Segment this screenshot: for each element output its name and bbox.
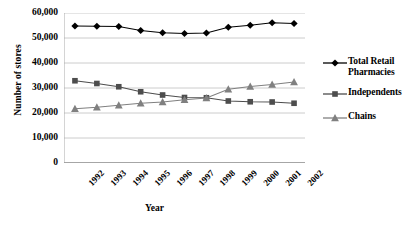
square-line-marker-icon — [322, 88, 348, 100]
diamond-data-marker — [331, 59, 338, 66]
x-axis-tick-label: 1996 — [174, 168, 194, 188]
y-axis-tick-label: 0 — [10, 158, 58, 168]
series-total-retail-pharmacies — [71, 19, 297, 37]
x-axis-tick-label: 2001 — [283, 168, 303, 188]
legend-label: Total RetailPharmacies — [348, 56, 395, 78]
chart-legend: Total RetailPharmaciesIndependentsChains — [322, 56, 411, 133]
y-axis-tick-label: 50,000 — [10, 33, 58, 43]
legend-label-line: Pharmacies — [348, 67, 395, 78]
square-data-marker — [116, 84, 122, 90]
diamond-data-marker — [137, 27, 144, 34]
diamond-data-marker — [71, 22, 78, 29]
triangle-data-marker — [290, 78, 298, 85]
x-axis-tick-label: 1992 — [86, 168, 106, 188]
x-axis-tick-label: 1994 — [130, 168, 150, 188]
legend-label-line: Chains — [348, 111, 376, 122]
y-axis-tick-label: 40,000 — [10, 58, 58, 68]
square-data-marker — [138, 89, 144, 95]
diamond-data-marker — [269, 19, 276, 26]
diamond-data-marker — [93, 23, 100, 30]
diamond-data-marker — [159, 29, 166, 36]
legend-label-line: Total Retail — [348, 56, 395, 67]
y-axis-tick-label: 30,000 — [10, 83, 58, 93]
diamond-data-marker — [181, 30, 188, 37]
x-axis-tick-label: 1997 — [196, 168, 216, 188]
square-data-marker — [269, 99, 275, 105]
square-data-marker — [94, 81, 100, 87]
x-axis-tick-label: 2000 — [261, 168, 281, 188]
legend-item[interactable]: Total RetailPharmacies — [322, 56, 411, 78]
x-axis-tick-label: 1998 — [218, 168, 238, 188]
diamond-data-marker — [203, 29, 210, 36]
pharmacy-stores-line-chart: Number of stores 010,00020,00030,00040,0… — [0, 0, 411, 231]
plot-svg — [64, 13, 305, 163]
y-axis-tick-labels: 010,00020,00030,00040,00050,00060,000 — [6, 0, 58, 231]
legend-label: Chains — [348, 111, 376, 122]
data-series-layer — [71, 19, 298, 112]
x-axis-tick-label: 1995 — [152, 168, 172, 188]
legend-label-line: Independents — [348, 87, 402, 98]
y-axis-tick-label: 20,000 — [10, 108, 58, 118]
diamond-data-marker — [115, 23, 122, 30]
square-data-marker — [160, 92, 166, 98]
square-data-marker — [72, 78, 78, 84]
square-data-marker — [291, 100, 297, 106]
x-axis-tick-label: 2002 — [305, 168, 325, 188]
diamond-data-marker — [247, 22, 254, 29]
y-axis-tick-label: 10,000 — [10, 133, 58, 143]
triangle-line-marker-icon — [322, 112, 348, 124]
legend-item[interactable]: Chains — [322, 111, 411, 124]
plot-area — [64, 13, 305, 163]
square-data-marker — [226, 98, 232, 104]
x-axis-tick-label: 1999 — [240, 168, 260, 188]
diamond-data-marker — [290, 20, 297, 27]
legend-item[interactable]: Independents — [322, 87, 411, 100]
square-data-marker — [332, 91, 338, 97]
square-data-marker — [247, 99, 253, 105]
legend-label: Independents — [348, 87, 402, 98]
diamond-data-marker — [225, 24, 232, 31]
x-axis-tick-label: 1993 — [108, 168, 128, 188]
y-axis-tick-label: 60,000 — [10, 8, 58, 18]
x-axis-title: Year — [145, 203, 164, 213]
diamond-line-marker-icon — [322, 57, 348, 69]
